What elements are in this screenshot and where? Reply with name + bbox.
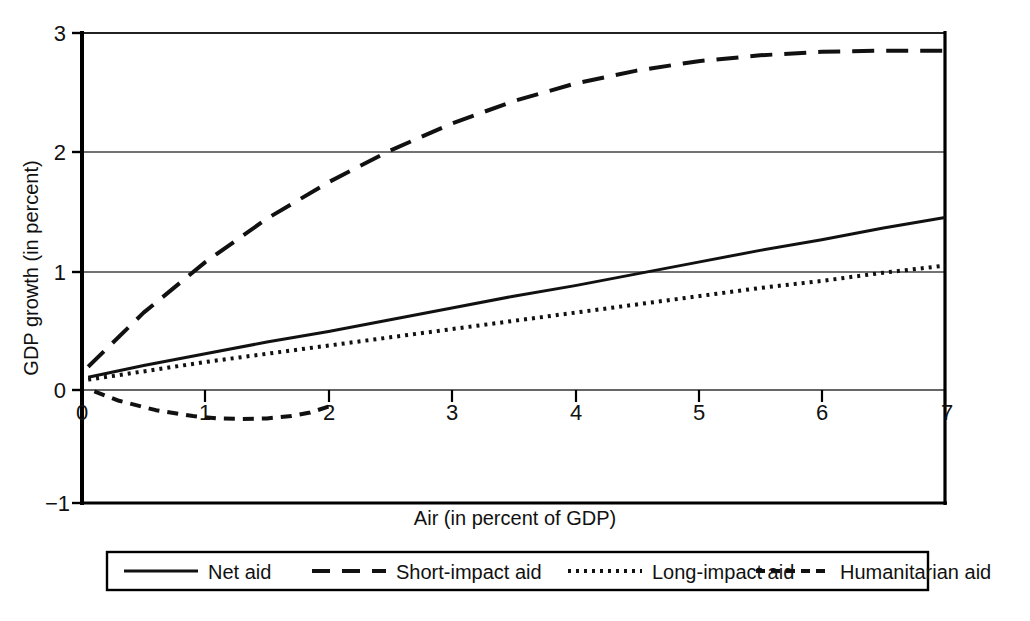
x-tick-label-4: 4 [570, 400, 582, 425]
legend: Net aid Short-impact aid Long-impact aid… [107, 552, 991, 590]
y-tick-label-0: 0 [54, 378, 66, 403]
y-tick-label-1: 1 [54, 260, 66, 285]
x-tick-label-0: 0 [76, 400, 88, 425]
legend-label-short-impact-aid: Short-impact aid [396, 561, 542, 583]
legend-label-net-aid: Net aid [208, 561, 271, 583]
x-tick-label-1: 1 [199, 400, 211, 425]
y-axis-title: GDP growth (in percent) [20, 160, 42, 375]
chart-svg: 3 2 1 0 −1 0 1 2 3 4 5 6 7 [0, 0, 1030, 621]
x-tick-label-7: 7 [941, 400, 953, 425]
x-axis-title: Air (in percent of GDP) [414, 507, 616, 529]
y-tick-label-minus1: −1 [45, 491, 70, 516]
x-tick-label-2: 2 [323, 400, 335, 425]
x-tick-label-3: 3 [446, 400, 458, 425]
x-tick-label-5: 5 [693, 400, 705, 425]
y-tick-label-3: 3 [54, 21, 66, 46]
legend-label-humanitarian-aid: Humanitarian aid [840, 561, 991, 583]
y-tick-label-2: 2 [54, 140, 66, 165]
x-tick-label-6: 6 [816, 400, 828, 425]
chart-figure: 3 2 1 0 −1 0 1 2 3 4 5 6 7 [0, 0, 1030, 621]
